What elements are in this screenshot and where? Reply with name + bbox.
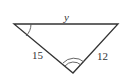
label-y: y bbox=[63, 11, 69, 23]
label-12: 12 bbox=[97, 50, 108, 62]
label-15: 15 bbox=[32, 49, 44, 61]
triangle-diagram: y 15 12 bbox=[0, 0, 121, 81]
bottom-angle-arc-inner bbox=[65, 62, 81, 66]
